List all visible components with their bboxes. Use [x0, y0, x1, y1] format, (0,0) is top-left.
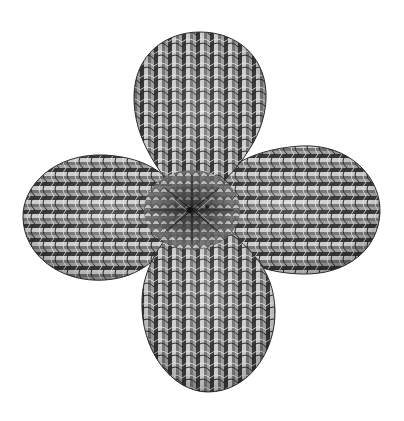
center-singularity — [144, 170, 240, 250]
surface-render — [0, 0, 404, 421]
